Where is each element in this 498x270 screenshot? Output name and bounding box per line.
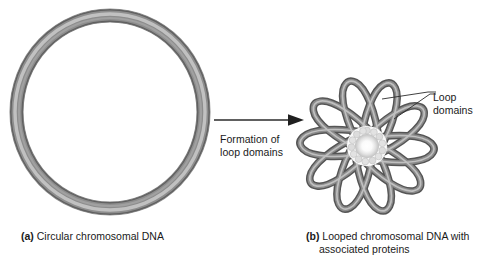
caption-panel-b: (b) Looped chromosomal DNA with associat… [306,230,494,255]
caption-b-text-line1: Looped chromosomal DNA with [322,230,469,242]
loop-domains-label-line2: domains [433,104,495,117]
callout-leader-line-lower [394,94,436,119]
figure-canvas: Formation of loop domains [0,0,498,270]
caption-panel-a: (a) Circular chromosomal DNA [21,230,221,243]
protein-core [355,134,379,158]
caption-b-text-line2: associated proteins [319,243,409,255]
loop-domains-label: Loop domains [433,91,495,116]
caption-a-text: Circular chromosomal DNA [37,230,164,242]
dna-ring-tube [17,16,204,209]
loop-domains-label-line1: Loop [433,91,495,104]
caption-b-tag: (b) [306,230,319,242]
caption-a-tag: (a) [21,230,34,242]
dna-ring-highlight [15,14,205,210]
dna-ring-highlight-secondary [19,18,201,206]
dna-ring-contour-inner [23,22,197,202]
panel-a-circular-dna [0,0,215,225]
